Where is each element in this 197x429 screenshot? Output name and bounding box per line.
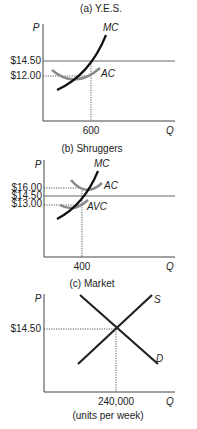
panel-b-avc-label: AVC <box>86 201 108 212</box>
panel-c-y-axis-label: P <box>35 293 42 304</box>
charts-figure: (a) Y.E.S. P Q $14.50 $12.00 600 AC MC (… <box>0 0 197 429</box>
panel-b-y-axis-label: P <box>35 159 42 170</box>
panel-c-y-tick-1450: $14.50 <box>10 323 41 334</box>
panel-a-x-tick-600: 600 <box>83 125 100 136</box>
panel-b-shruggers: (b) Shruggers P Q $16.00 $14.50 $13.00 4… <box>11 143 175 272</box>
panel-a-y-tick-1450: $14.50 <box>10 55 41 66</box>
panel-a-y-tick-1200: $12.00 <box>10 70 41 81</box>
panel-b-x-tick-400: 400 <box>74 261 91 272</box>
panel-a-title: (a) Y.E.S. <box>80 3 122 14</box>
panel-c-units-note: (units per week) <box>72 410 143 421</box>
panel-c-supply-label: S <box>154 294 161 305</box>
panel-c-market: (c) Market P Q $14.50 240,000 D S (units… <box>10 278 175 421</box>
panel-a-yes: (a) Y.E.S. P Q $14.50 $12.00 600 AC MC <box>10 3 175 136</box>
panel-b-x-axis-label: Q <box>166 261 174 272</box>
panel-c-demand-label: D <box>156 353 163 364</box>
panel-c-x-tick-240000: 240,000 <box>98 396 135 407</box>
panel-c-demand-curve <box>80 295 158 364</box>
panel-b-ac-label: AC <box>103 180 119 191</box>
panel-a-mc-label: MC <box>103 22 119 33</box>
panel-a-x-axis-label: Q <box>166 125 174 136</box>
panel-c-supply-curve <box>78 295 152 364</box>
panel-c-x-axis-label: Q <box>166 396 174 407</box>
panel-c-title: (c) Market <box>70 278 115 289</box>
panel-b-mc-label: MC <box>94 158 110 169</box>
panel-b-title: (b) Shruggers <box>61 143 122 154</box>
panel-b-y-tick-1300: $13.00 <box>11 198 42 209</box>
panel-a-ac-label: AC <box>100 68 116 79</box>
panel-a-y-axis-label: P <box>33 22 40 33</box>
panel-a-mc-curve <box>57 35 106 90</box>
